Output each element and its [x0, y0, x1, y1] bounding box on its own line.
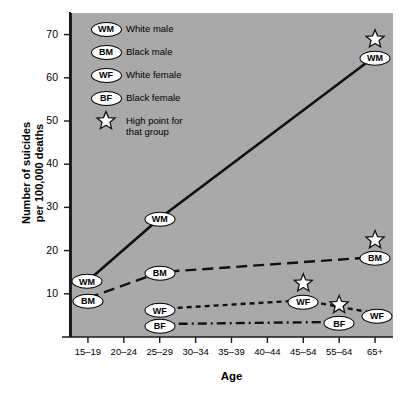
data-point-marker-wf: WF — [288, 291, 319, 310]
x-tick-label: 40–44 — [254, 346, 280, 357]
chart-legend: WMWhite maleBMBlack maleWFWhite femaleBF… — [86, 20, 236, 143]
star-icon — [94, 110, 118, 132]
legend-label: Black male — [126, 43, 172, 57]
high-point-star — [294, 274, 312, 291]
marker-pill-label: WM — [71, 274, 102, 289]
legend-key: BM — [86, 43, 126, 61]
series-line-bf — [160, 322, 339, 324]
marker-pill-label: WM — [144, 211, 175, 226]
x-tick-label: 25–29 — [147, 346, 173, 357]
legend-label: White female — [126, 66, 181, 80]
legend-item-wm: WMWhite male — [86, 20, 236, 42]
x-tick-label: 35–39 — [218, 346, 244, 357]
x-tick-label: 20–24 — [111, 346, 137, 357]
series-line-bm — [88, 257, 375, 298]
data-point-marker-bm: BM — [360, 247, 391, 266]
marker-pill-label: WM — [360, 50, 391, 65]
y-tick-label: 70 — [28, 28, 58, 40]
legend-key: WF — [86, 66, 126, 84]
x-tick-label: 15–19 — [75, 346, 101, 357]
legend-pill-bf: BF — [91, 91, 122, 106]
x-axis-title: Age — [70, 370, 393, 382]
legend-item-wf: WFWhite female — [86, 66, 236, 88]
data-point-marker-wm: WM — [360, 47, 391, 66]
legend-pill-wm: WM — [91, 22, 122, 37]
chart-figure: Number of suicides per 100,000 deaths 10… — [0, 0, 406, 393]
marker-pill-label: WF — [362, 308, 393, 323]
high-point-stars — [294, 30, 384, 313]
high-point-star — [366, 231, 384, 248]
marker-pill-label: BM — [360, 250, 391, 265]
marker-pill-label: BF — [324, 316, 355, 331]
high-point-star — [330, 295, 348, 312]
y-tick-label: 40 — [28, 157, 58, 169]
legend-label: White male — [126, 20, 174, 34]
legend-pill-bm: BM — [91, 45, 122, 60]
marker-pill-label: BM — [72, 293, 103, 308]
data-point-marker-wm: WM — [71, 271, 102, 290]
legend-label: Black female — [126, 89, 180, 103]
y-tick-label: 10 — [28, 287, 58, 299]
legend-pill-wf: WF — [91, 68, 122, 83]
data-point-marker-bf: BF — [324, 313, 355, 332]
legend-key — [86, 112, 126, 130]
marker-pill-label: BF — [144, 318, 175, 333]
y-tick-label: 50 — [28, 114, 58, 126]
legend-item-bm: BMBlack male — [86, 43, 236, 65]
legend-label: High point for that group — [126, 112, 183, 137]
x-tick-label: 30–34 — [182, 346, 208, 357]
data-point-marker-bf: BF — [144, 315, 175, 334]
x-tick-label: 45–54 — [290, 346, 316, 357]
legend-item-high-point: High point for that group — [86, 112, 236, 142]
legend-key: WM — [86, 20, 126, 38]
legend-item-bf: BFBlack female — [86, 89, 236, 111]
marker-pill-label: BM — [144, 265, 175, 280]
x-tick-label: 65+ — [367, 346, 383, 357]
x-tick-label: 55–64 — [326, 346, 352, 357]
data-point-marker-bm: BM — [144, 262, 175, 281]
y-tick-label: 30 — [28, 200, 58, 212]
data-point-marker-bm: BM — [72, 290, 103, 309]
legend-key: BF — [86, 89, 126, 107]
high-point-star — [366, 30, 384, 47]
y-tick-label: 20 — [28, 244, 58, 256]
data-point-marker-wf: WF — [362, 305, 393, 324]
data-point-marker-wm: WM — [144, 208, 175, 227]
marker-pill-label: WF — [288, 295, 319, 310]
y-tick-label: 60 — [28, 71, 58, 83]
